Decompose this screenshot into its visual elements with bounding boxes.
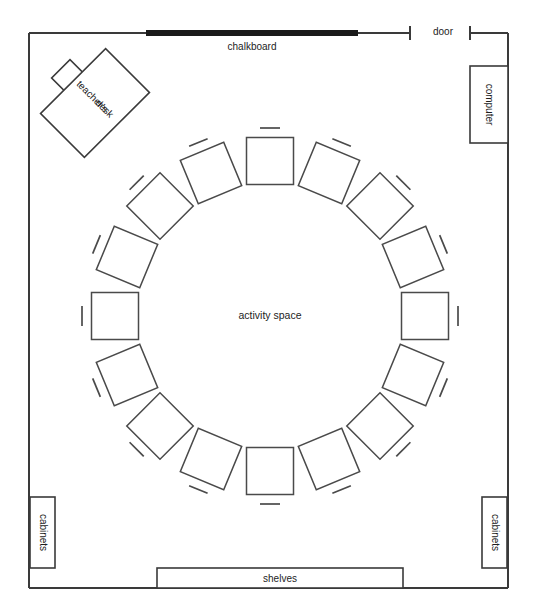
chair-back (332, 486, 350, 494)
shelves-label: shelves (263, 573, 297, 584)
chalkboard-label: chalkboard (228, 41, 277, 52)
chair-back (130, 176, 144, 190)
floorplan-svg: chalkboard door computer teacher's desk … (0, 0, 536, 616)
shelves-group: shelves (157, 568, 403, 588)
cabinet-left-label: cabinets (38, 514, 49, 551)
chair-back (332, 139, 350, 147)
desk-surface (247, 448, 294, 495)
student-desk (298, 134, 363, 204)
desk-surface (382, 344, 443, 405)
door: door (410, 26, 470, 40)
desk-surface (402, 293, 449, 340)
student-desk (347, 166, 420, 239)
chair-back (189, 486, 207, 494)
student-desk (382, 223, 452, 288)
chair-back (440, 378, 448, 396)
chair-back (440, 235, 448, 253)
classroom-floor-plan: chalkboard door computer teacher's desk … (0, 0, 536, 616)
chair-back (93, 378, 101, 396)
desk-surface (382, 226, 443, 287)
student-desk (382, 344, 452, 409)
cabinet-right-label: cabinets (490, 514, 501, 551)
desk-surface (298, 142, 359, 203)
door-label: door (433, 26, 454, 37)
chair-back (93, 235, 101, 253)
chair-back (189, 139, 207, 147)
cabinet-left-group: cabinets (30, 497, 55, 568)
student-desk (82, 293, 139, 340)
desk-surface (247, 138, 294, 185)
desk-surface (96, 226, 157, 287)
chalkboard-bar (146, 30, 358, 36)
student-desk (177, 428, 242, 498)
student-desk (247, 448, 294, 505)
desk-surface (180, 142, 241, 203)
student-desk (120, 393, 193, 466)
chair-back (396, 176, 410, 190)
desk-surface (298, 428, 359, 489)
student-desk (88, 223, 158, 288)
student-desk (120, 166, 193, 239)
student-desk (347, 393, 420, 466)
student-desk (88, 344, 158, 409)
student-desk (402, 293, 459, 340)
activity-space-label: activity space (238, 309, 301, 321)
desk-surface (92, 293, 139, 340)
student-desk (177, 134, 242, 204)
chalkboard: chalkboard (146, 30, 358, 52)
student-desk (247, 128, 294, 185)
chair-back (130, 442, 144, 456)
cabinet-right-group: cabinets (482, 497, 507, 568)
computer-station: computer (470, 66, 508, 143)
teachers-desk-group: teacher's desk (41, 49, 150, 158)
desk-surface (96, 344, 157, 405)
desk-surface (180, 428, 241, 489)
student-desk (298, 428, 363, 498)
chair-back (396, 442, 410, 456)
computer-label: computer (484, 84, 495, 126)
